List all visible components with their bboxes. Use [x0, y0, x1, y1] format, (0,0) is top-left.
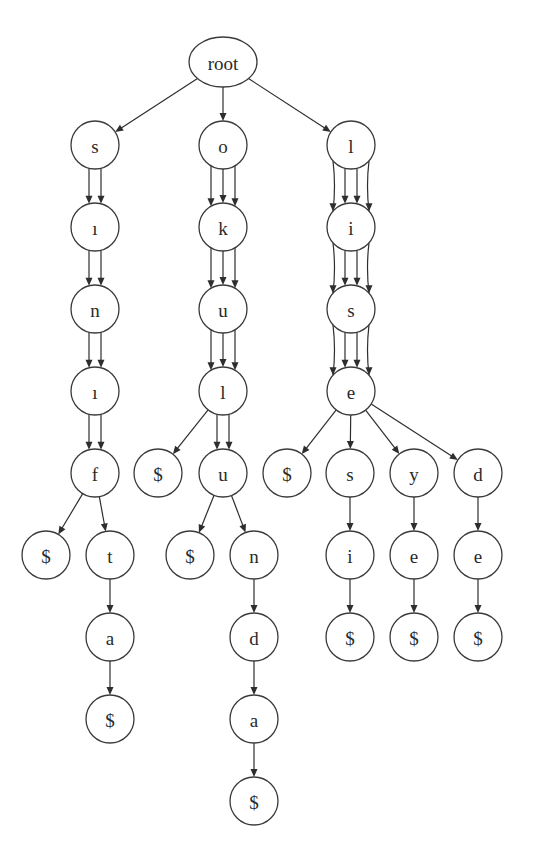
trie-node-o2: k: [199, 203, 247, 251]
node-label: d: [249, 628, 259, 649]
edge-l4-l5: [302, 410, 336, 454]
node-label: d: [473, 464, 483, 485]
edge-o9-o10: [251, 661, 258, 695]
node-label: l: [348, 136, 353, 157]
node-label: i: [347, 546, 352, 567]
edge-s2-s3: [86, 250, 105, 286]
trie-node-l5: $: [263, 449, 311, 497]
trie-node-l9: i: [326, 531, 374, 579]
edge-o10-o11: [251, 743, 258, 777]
node-label: $: [105, 710, 115, 731]
edge-o6-o8: [231, 495, 245, 532]
edge-o3-o4: [208, 330, 239, 370]
trie-node-s6: $: [22, 531, 70, 579]
edge-l8-l11: [475, 497, 482, 531]
trie-node-o1: o: [199, 121, 247, 169]
node-label: root: [208, 53, 239, 74]
edge-s1-s2: [86, 168, 105, 204]
edge-l6-l9: [347, 497, 354, 531]
trie-node-l2: i: [327, 203, 375, 251]
node-label: $: [249, 792, 259, 813]
trie-node-o9: d: [230, 613, 278, 661]
node-label: e: [474, 546, 482, 567]
trie-node-o3: u: [199, 285, 247, 333]
node-label: $: [185, 546, 195, 567]
edge-l7-l10: [411, 497, 418, 531]
trie-node-s9: $: [86, 695, 134, 743]
edges-layer: [58, 79, 481, 777]
node-label: u: [218, 464, 228, 485]
edge-o4-o6: [214, 414, 233, 450]
node-label: $: [41, 546, 51, 567]
node-label: s: [91, 136, 98, 157]
edge-l4-l7: [366, 410, 400, 454]
node-label: s: [346, 464, 353, 485]
trie-node-s2: ı: [71, 203, 119, 251]
trie-node-l8: d: [454, 449, 502, 497]
node-label: $: [282, 464, 292, 485]
nodes-layer: rootsınıf$ta$okul$u$nda$lise$sydiee$$$: [22, 37, 502, 825]
trie-node-s4: ı: [71, 367, 119, 415]
node-label: $: [409, 628, 419, 649]
edge-s7-s8: [107, 579, 114, 613]
node-label: k: [218, 218, 228, 239]
node-label: t: [107, 546, 113, 567]
trie-node-l3: s: [327, 285, 375, 333]
node-label: $: [473, 628, 483, 649]
node-label: ı: [92, 382, 97, 403]
trie-node-o4: l: [199, 367, 247, 415]
node-label: i: [348, 218, 353, 239]
node-label: o: [218, 136, 228, 157]
trie-node-l7: y: [390, 449, 438, 497]
trie-node-o5: $: [134, 449, 182, 497]
edge-l10-l13: [411, 579, 418, 613]
node-label: e: [410, 546, 418, 567]
edge-o2-o3: [208, 248, 239, 288]
trie-node-l13: $: [390, 613, 438, 661]
trie-node-o6: u: [199, 449, 247, 497]
edge-s5-s7: [99, 497, 107, 532]
trie-node-l14: $: [454, 613, 502, 661]
trie-node-s8: a: [86, 613, 134, 661]
node-label: $: [153, 464, 163, 485]
node-label: e: [347, 382, 355, 403]
edge-o6-o7: [199, 495, 214, 532]
node-label: n: [249, 546, 259, 567]
edge-o8-o9: [251, 579, 258, 613]
edge-l9-l12: [347, 579, 354, 613]
edge-s8-s9: [107, 661, 114, 695]
node-label: s: [347, 300, 354, 321]
trie-node-s1: s: [71, 121, 119, 169]
node-label: ı: [92, 218, 97, 239]
edge-l11-l14: [475, 579, 482, 613]
node-label: a: [106, 628, 115, 649]
edge-root-o1: [220, 87, 227, 121]
edge-o1-o2: [208, 166, 239, 206]
trie-node-o10: a: [230, 695, 278, 743]
trie-node-o7: $: [166, 531, 214, 579]
trie-node-l10: e: [390, 531, 438, 579]
trie-node-s3: n: [71, 285, 119, 333]
node-label: n: [90, 300, 100, 321]
trie-node-s7: t: [86, 531, 134, 579]
trie-diagram: rootsınıf$ta$okul$u$nda$lise$sydiee$$$: [0, 0, 536, 861]
edge-l4-l6: [347, 415, 354, 449]
node-label: a: [250, 710, 259, 731]
node-label: f: [92, 464, 99, 485]
trie-node-l1: l: [327, 121, 375, 169]
node-label: $: [345, 628, 355, 649]
node-label: l: [220, 382, 225, 403]
trie-node-l11: e: [454, 531, 502, 579]
trie-node-l6: s: [326, 449, 374, 497]
trie-node-root: root: [189, 37, 257, 87]
node-label: u: [218, 300, 228, 321]
edge-o4-o5: [173, 410, 208, 454]
trie-node-s5: f: [71, 449, 119, 497]
trie-node-o11: $: [230, 777, 278, 825]
edge-s5-s6: [58, 494, 82, 535]
edge-s3-s4: [86, 332, 105, 368]
trie-node-l12: $: [326, 613, 374, 661]
trie-node-o8: n: [230, 531, 278, 579]
node-label: y: [409, 464, 419, 485]
edge-root-s1: [115, 79, 197, 132]
